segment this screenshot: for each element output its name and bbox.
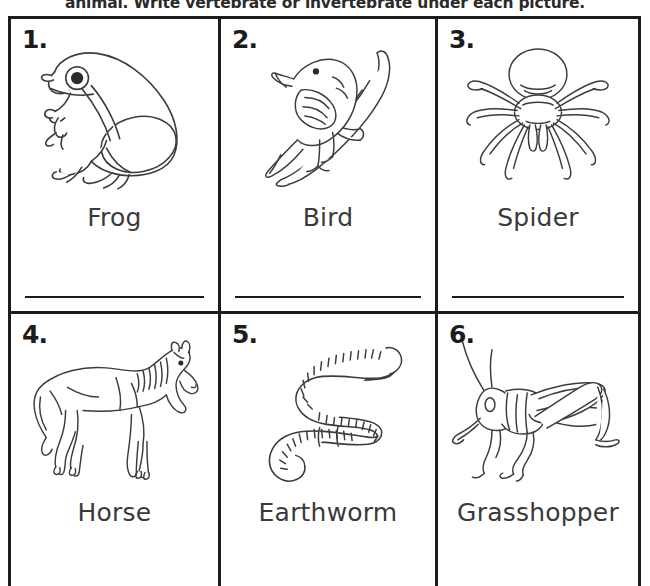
animal-grid: 1.: [8, 16, 641, 586]
item-number: 2.: [232, 27, 257, 52]
grasshopper-illustration: [440, 324, 636, 496]
animal-label: Earthworm: [259, 500, 398, 525]
grid-row: 1.: [11, 19, 638, 314]
item-number: 5.: [232, 322, 257, 347]
animal-cell-earthworm[interactable]: 5.: [221, 314, 438, 586]
horse-illustration: [17, 324, 213, 496]
animal-label: Frog: [87, 205, 141, 230]
animal-label: Bird: [303, 205, 354, 230]
answer-line[interactable]: [25, 296, 204, 298]
item-number: 4.: [22, 322, 47, 347]
grid-row: 4.: [11, 314, 638, 586]
worksheet-instructions: animal. Write vertebrate or invertebrate…: [0, 0, 650, 15]
animal-label: Horse: [78, 500, 152, 525]
spider-illustration: [440, 29, 636, 201]
item-number: 6.: [449, 322, 474, 347]
item-number: 1.: [22, 27, 47, 52]
earthworm-illustration: [230, 324, 426, 496]
frog-illustration: [17, 29, 213, 201]
animal-label: Spider: [497, 205, 578, 230]
animal-cell-horse[interactable]: 4.: [11, 314, 221, 586]
animal-cell-frog[interactable]: 1.: [11, 19, 221, 311]
answer-line[interactable]: [452, 296, 624, 298]
animal-label: Grasshopper: [457, 500, 619, 525]
animal-cell-grasshopper[interactable]: 6.: [438, 314, 638, 586]
item-number: 3.: [449, 27, 474, 52]
answer-line[interactable]: [235, 296, 421, 298]
animal-cell-spider[interactable]: 3.: [438, 19, 638, 311]
animal-cell-bird[interactable]: 2.: [221, 19, 438, 311]
bird-on-branch-illustration: [230, 29, 426, 201]
